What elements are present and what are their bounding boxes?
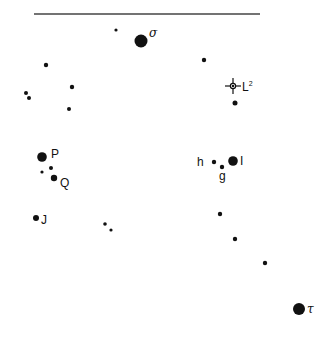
star-sigma — [135, 35, 148, 48]
star-j — [33, 215, 39, 221]
star-label-i: I — [240, 154, 243, 168]
star — [202, 58, 206, 62]
star-tau — [293, 303, 305, 315]
star — [49, 166, 53, 170]
crosshair-marker-icon — [225, 78, 241, 94]
star-label-g: g — [219, 169, 226, 183]
star — [263, 261, 267, 265]
star — [233, 237, 237, 241]
star — [218, 212, 222, 216]
star-label-tau: τ — [307, 302, 314, 316]
star — [24, 91, 28, 95]
star — [103, 222, 107, 226]
marker-label-l2: L2 — [242, 80, 253, 94]
star — [233, 101, 238, 106]
star — [40, 170, 43, 173]
star — [70, 85, 74, 89]
star — [27, 96, 31, 100]
star-label-j: J — [41, 213, 47, 227]
star-label-h: h — [197, 155, 204, 169]
star-label-p: P — [51, 147, 59, 161]
labels-layer: σPQhIgJτ — [41, 26, 314, 316]
markers-layer: L2 — [225, 78, 253, 94]
stars-layer — [24, 28, 305, 315]
star-chart: σPQhIgJτ L2 — [0, 0, 315, 347]
star-h — [212, 160, 216, 164]
star-i — [228, 156, 238, 166]
star — [44, 63, 48, 67]
star — [109, 228, 112, 231]
star-label-sigma: σ — [149, 26, 158, 40]
star-p — [37, 152, 47, 162]
star-label-q: Q — [60, 176, 69, 190]
star — [67, 107, 71, 111]
star-q — [51, 175, 57, 181]
star — [114, 28, 117, 31]
